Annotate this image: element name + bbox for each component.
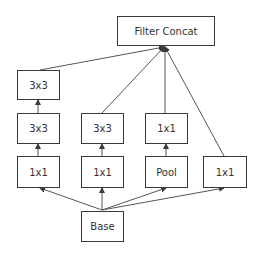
- edge-base-c1: [40, 188, 102, 210]
- node-base: Base: [81, 211, 124, 242]
- node-col3-pool: Pool: [145, 156, 188, 188]
- node-col4-bot: 1x1: [203, 156, 247, 188]
- edge-base-c4: [102, 188, 224, 210]
- node-col2-bot: 1x1: [81, 156, 124, 188]
- node-filter-concat: Filter Concat: [117, 16, 215, 46]
- node-col1-top: 3x3: [17, 70, 60, 100]
- node-col1-mid: 3x3: [17, 113, 60, 144]
- edge-base-c3: [102, 188, 166, 210]
- node-col3-mid: 1x1: [145, 113, 188, 144]
- node-col2-mid: 3x3: [81, 113, 124, 144]
- node-col1-bot: 1x1: [17, 156, 60, 188]
